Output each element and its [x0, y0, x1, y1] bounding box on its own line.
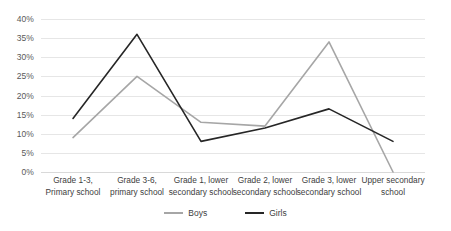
- legend-item-boys[interactable]: Boys: [164, 208, 207, 218]
- y-axis-tick-label: 25%: [17, 71, 34, 81]
- legend-label: Girls: [269, 208, 286, 218]
- y-axis-tick-label: 30%: [17, 52, 34, 62]
- y-axis-tick-label: 20%: [17, 91, 34, 101]
- series-layer: [41, 19, 425, 172]
- legend-label: Boys: [188, 208, 207, 218]
- x-axis-category-labels: Grade 1-3,Primary schoolGrade 3-6,primar…: [41, 175, 425, 205]
- x-axis-category-label: Upper secondaryschool: [354, 175, 432, 198]
- y-axis-tick-label: 10%: [17, 129, 34, 139]
- line-chart: 0%5%10%15%20%25%30%35%40% Grade 1-3,Prim…: [0, 0, 451, 231]
- y-axis-tick-label: 15%: [17, 110, 34, 120]
- y-axis-tick-label: 5%: [22, 148, 35, 158]
- x-axis-category-label-line: Upper secondary: [354, 175, 432, 187]
- y-axis-tick-label: 0%: [22, 167, 35, 177]
- y-axis-tick-label: 35%: [17, 33, 34, 43]
- series-line-boys: [73, 42, 393, 172]
- legend-line-swatch: [245, 212, 264, 214]
- legend-line-swatch: [164, 212, 183, 214]
- series-line-girls: [73, 34, 393, 141]
- y-axis-tick-labels: 0%5%10%15%20%25%30%35%40%: [0, 19, 38, 172]
- plot-area: [41, 19, 425, 172]
- legend-item-girls[interactable]: Girls: [245, 208, 286, 218]
- x-axis-category-label-line: school: [354, 187, 432, 199]
- y-axis-tick-label: 40%: [17, 14, 34, 24]
- chart-legend: BoysGirls: [0, 208, 451, 218]
- gridline: [41, 172, 425, 173]
